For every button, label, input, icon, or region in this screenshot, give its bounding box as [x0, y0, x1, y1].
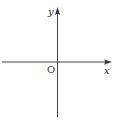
origin-label: O — [47, 64, 55, 75]
coordinate-plane: y O x — [0, 0, 115, 122]
x-axis-label: x — [104, 65, 110, 76]
y-axis-label: y — [47, 6, 54, 17]
